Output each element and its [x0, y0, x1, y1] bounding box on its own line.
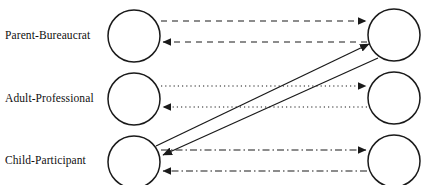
node-parent-bureaucrat-left	[108, 10, 160, 62]
node-parent-bureaucrat-right	[368, 9, 420, 61]
row-label-parent-bureaucrat: Parent-Bureaucrat	[5, 30, 90, 42]
row-label-adult-professional: Adult-Professional	[5, 93, 94, 105]
diagonal-child-left-to-parent-right	[156, 44, 369, 146]
row-adult-professional	[108, 72, 420, 125]
diagonal-connectors	[156, 44, 378, 155]
node-child-participant-right	[368, 135, 420, 185]
row-parent-bureaucrat	[108, 9, 420, 62]
node-adult-professional-left	[108, 73, 160, 125]
node-adult-professional-right	[368, 72, 420, 124]
node-child-participant-left	[108, 136, 160, 185]
role-relationship-diagram: Parent-Bureaucrat Adult-Professional Chi…	[0, 0, 422, 185]
row-child-participant	[161, 150, 367, 171]
row-child-participant-nodes	[108, 135, 420, 185]
row-label-child-participant: Child-Participant	[5, 155, 86, 167]
